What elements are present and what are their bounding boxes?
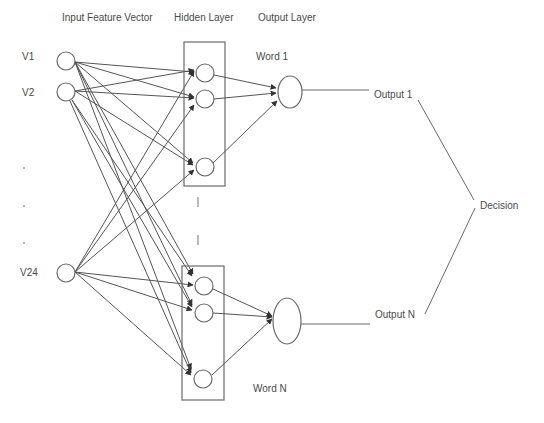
header-output-layer: Output Layer [258, 12, 316, 23]
input-ellipsis [23, 167, 25, 244]
output-label-n: Output N [375, 309, 415, 320]
hidden-node-5 [195, 304, 213, 322]
input-to-hidden-edges [70, 62, 194, 375]
input-node-v2 [57, 83, 75, 101]
hidden-node-6 [194, 370, 212, 388]
input-label-v24: V24 [20, 267, 38, 278]
hidden-to-output-edges [212, 75, 277, 375]
hidden-node-1 [196, 64, 214, 82]
decision-label: Decision [480, 200, 518, 211]
output-n-to-decision-line [425, 208, 475, 314]
input-node-v24 [57, 264, 75, 282]
header-input-feature-vector: Input Feature Vector [62, 12, 153, 23]
output-node-word-n [273, 298, 301, 344]
hidden-node-4 [195, 277, 213, 295]
hidden-node-2 [196, 90, 214, 108]
input-node-v1 [57, 52, 75, 70]
output-node-word-1 [278, 76, 302, 108]
output-label-1: Output 1 [374, 89, 413, 100]
header-hidden-layer: Hidden Layer [174, 12, 234, 23]
output-word-label-1: Word 1 [256, 51, 288, 62]
output-1-to-decision-line [418, 100, 474, 200]
input-label-v2: V2 [22, 87, 35, 98]
neural-network-diagram: Input Feature Vector Hidden Layer Output… [0, 0, 544, 423]
hidden-node-3 [196, 158, 214, 176]
input-label-v1: V1 [22, 51, 35, 62]
output-word-label-n: Word N [253, 383, 287, 394]
